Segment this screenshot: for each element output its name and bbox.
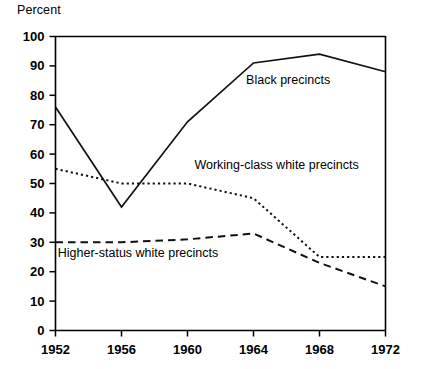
y-tick-label: 50 bbox=[30, 176, 44, 191]
series-annotation: Higher-status white precincts bbox=[58, 246, 218, 260]
y-tick-label: 0 bbox=[37, 323, 44, 338]
series-annotation: Black precincts bbox=[246, 73, 330, 87]
y-tick-label: 70 bbox=[30, 117, 44, 132]
line-chart-plot: 0102030405060708090100 19521956196019641… bbox=[0, 0, 444, 369]
x-tick-label: 1968 bbox=[305, 342, 334, 357]
chart-figure: Percent 0102030405060708090100 195219561… bbox=[0, 0, 444, 369]
x-tick-label: 1952 bbox=[41, 342, 70, 357]
x-tick-label-group: 195219561960196419681972 bbox=[41, 342, 400, 357]
y-tick-label: 10 bbox=[30, 294, 44, 309]
y-tick-label: 100 bbox=[23, 29, 45, 44]
x-tick-label: 1972 bbox=[371, 342, 400, 357]
series-annotation: Working-class white precincts bbox=[194, 158, 358, 172]
y-tick-label: 90 bbox=[30, 58, 44, 73]
series-annotation-group: Black precinctsWorking-class white preci… bbox=[58, 73, 359, 260]
y-tick-label: 30 bbox=[30, 235, 44, 250]
y-tick-label: 80 bbox=[30, 88, 44, 103]
y-tick-label-group: 0102030405060708090100 bbox=[23, 29, 45, 338]
x-tick-group bbox=[56, 331, 386, 337]
x-tick-label: 1956 bbox=[107, 342, 136, 357]
y-tick-group bbox=[50, 37, 56, 331]
x-tick-label: 1960 bbox=[173, 342, 202, 357]
y-tick-label: 40 bbox=[30, 205, 44, 220]
series-line-solid bbox=[56, 54, 386, 207]
y-tick-label: 60 bbox=[30, 147, 44, 162]
x-tick-label: 1964 bbox=[239, 342, 269, 357]
y-tick-label: 20 bbox=[30, 264, 44, 279]
